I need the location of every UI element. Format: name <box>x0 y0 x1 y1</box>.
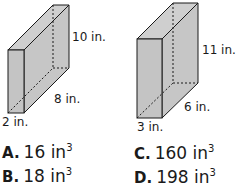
choice-exponent: 3 <box>66 166 72 177</box>
choice-value: 18 in <box>23 166 66 186</box>
prism-1-height-label: 10 in. <box>72 30 106 44</box>
choice-exponent: 3 <box>210 167 216 178</box>
choice-exponent: 3 <box>208 143 214 154</box>
prism-2-length-label: 6 in. <box>184 100 210 114</box>
prism-2-height-label: 11 in. <box>202 43 236 57</box>
prism-1-width-label: 2 in. <box>2 115 28 129</box>
prism-1-length-label: 8 in. <box>54 92 80 106</box>
choice-value: 16 in <box>24 142 67 162</box>
choice-letter: C. <box>134 145 151 163</box>
choice-b[interactable]: B.18 in3 <box>2 166 72 186</box>
choice-a[interactable]: A.16 in3 <box>2 142 73 162</box>
choice-value: 160 in <box>155 143 208 163</box>
choice-value: 198 in <box>156 167 209 187</box>
prism-2-width-label: 3 in. <box>137 120 163 134</box>
choice-exponent: 3 <box>66 142 72 153</box>
choice-letter: A. <box>2 144 20 162</box>
prism-1-front-face <box>8 50 24 113</box>
choice-c[interactable]: C.160 in3 <box>134 143 214 163</box>
choice-d[interactable]: D.198 in3 <box>134 167 216 187</box>
choice-letter: D. <box>134 169 152 187</box>
choice-letter: B. <box>2 168 19 186</box>
